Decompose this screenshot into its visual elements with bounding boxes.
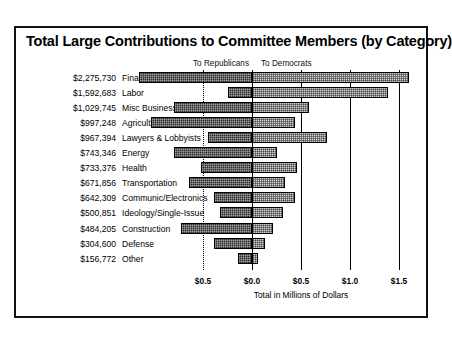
x-tick-label: $0.0 bbox=[244, 276, 260, 286]
bar-segment-to-democrats bbox=[252, 192, 295, 203]
row-category-label: Misc Business bbox=[122, 103, 177, 113]
row-amount-label: $500,851 bbox=[30, 208, 116, 218]
bar-segment-to-republicans bbox=[220, 207, 252, 218]
bar-segment-to-democrats bbox=[252, 87, 388, 98]
bar-segment-to-democrats bbox=[252, 162, 297, 173]
bar-segment-to-democrats bbox=[252, 177, 285, 188]
bar-segment-to-democrats bbox=[252, 147, 277, 158]
gridline-15 bbox=[399, 70, 400, 270]
bar-segment-to-republicans bbox=[214, 192, 252, 203]
gridline-10 bbox=[350, 70, 351, 270]
x-tick-label: $1.5 bbox=[391, 276, 407, 286]
bar-segment-to-democrats bbox=[252, 132, 327, 143]
bar-segment-to-democrats bbox=[252, 207, 283, 218]
bar-segment-to-republicans bbox=[181, 223, 252, 234]
bar-segment-to-democrats bbox=[252, 238, 265, 249]
bar-segment-to-republicans bbox=[174, 102, 252, 113]
bar-segment-to-republicans bbox=[174, 147, 252, 158]
row-amount-label: $156,772 bbox=[30, 254, 116, 264]
x-axis-title: Total in Millions of Dollars bbox=[254, 290, 348, 300]
bar-segment-to-democrats bbox=[252, 253, 258, 264]
row-category-label: Ideology/Single-Issue bbox=[122, 208, 204, 218]
bar-segment-to-democrats bbox=[252, 223, 273, 234]
row-amount-label: $671,856 bbox=[30, 178, 116, 188]
row-category-label: Construction bbox=[122, 224, 170, 234]
row-amount-label: $304,600 bbox=[30, 239, 116, 249]
bar-segment-to-republicans bbox=[228, 87, 253, 98]
row-amount-label: $967,394 bbox=[30, 133, 116, 143]
bar-segment-to-democrats bbox=[252, 117, 295, 128]
bar-segment-to-republicans bbox=[139, 72, 252, 83]
row-amount-label: $1,029,745 bbox=[30, 103, 116, 113]
row-amount-label: $484,205 bbox=[30, 224, 116, 234]
row-amount-label: $733,376 bbox=[30, 163, 116, 173]
x-tick-label: $0.5 bbox=[293, 276, 309, 286]
chart-frame: Total Large Contributions to Committee M… bbox=[14, 26, 428, 318]
row-amount-label: $642,309 bbox=[30, 193, 116, 203]
row-amount-label: $1,592,683 bbox=[30, 88, 116, 98]
row-amount-label: $2,275,730 bbox=[30, 73, 116, 83]
row-amount-label: $743,346 bbox=[30, 148, 116, 158]
row-category-label: Labor bbox=[122, 88, 144, 98]
row-amount-label: $997,248 bbox=[30, 118, 116, 128]
bar-segment-to-republicans bbox=[208, 132, 252, 143]
row-category-label: Other bbox=[122, 254, 144, 264]
x-tick-label: $1.0 bbox=[342, 276, 358, 286]
x-tick-label: $0.5 bbox=[195, 276, 211, 286]
plot-area: $0.5$0.0$0.5$1.0$1.5Total in Millions of… bbox=[16, 28, 426, 316]
bar-segment-to-republicans bbox=[238, 253, 252, 264]
bar-segment-to-republicans bbox=[189, 177, 252, 188]
bar-segment-to-republicans bbox=[151, 117, 252, 128]
bar-segment-to-republicans bbox=[214, 238, 252, 249]
row-category-label: Transportation bbox=[122, 178, 177, 188]
row-category-label: Communic/Electronics bbox=[122, 193, 207, 203]
gridline-05 bbox=[301, 70, 302, 270]
row-category-label: Lawyers & Lobbyists bbox=[122, 133, 201, 143]
row-category-label: Health bbox=[122, 163, 147, 173]
row-category-label: Defense bbox=[122, 239, 154, 249]
bar-segment-to-democrats bbox=[252, 102, 309, 113]
bar-segment-to-republicans bbox=[201, 162, 252, 173]
row-category-label: Energy bbox=[122, 148, 149, 158]
bar-segment-to-democrats bbox=[252, 72, 409, 83]
